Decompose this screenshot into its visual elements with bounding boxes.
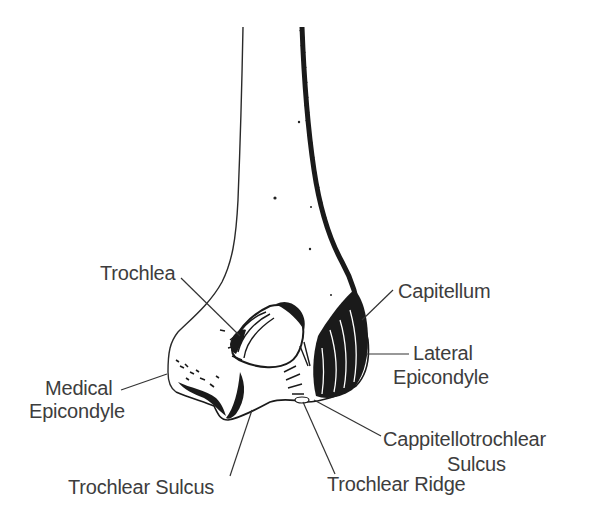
label-capitellotrochlear-sulcus-line1: Cappitellotrochlear	[383, 428, 546, 450]
label-capitellum: Capitellum	[398, 280, 490, 302]
shaft-lateral-outline	[302, 27, 360, 320]
trochlear-sulcus-shading	[226, 372, 244, 419]
label-medial-epicondyle-line2: Epicondyle	[29, 400, 125, 422]
medial-epicondyle-shading	[178, 382, 226, 416]
leader-trochlea	[181, 278, 240, 336]
label-lateral-epicondyle-line2: Epicondyle	[393, 366, 489, 388]
trochlear-ridge-oval	[295, 397, 309, 403]
leader-capitellotrochlear-sulcus	[314, 400, 381, 436]
shaft-medial-outline	[168, 27, 243, 392]
label-capitellotrochlear-sulcus-line2: Sulcus	[447, 453, 506, 475]
surface-dot	[330, 294, 332, 296]
label-lateral-epicondyle-line1: Lateral	[413, 342, 473, 364]
leader-medial-epicondyle	[121, 374, 167, 390]
leader-capitellum	[362, 290, 393, 320]
leader-trochlear-ridge	[303, 402, 335, 474]
label-trochlea: Trochlea	[100, 262, 175, 284]
surface-dot	[309, 248, 311, 250]
leader-trochlear-sulcus	[230, 410, 252, 476]
surface-dot	[310, 206, 312, 208]
label-medial-epicondyle-line1: Medical	[45, 377, 113, 399]
label-trochlear-sulcus: Trochlear Sulcus	[68, 476, 214, 498]
medial-speckles	[176, 330, 225, 387]
label-trochlear-ridge: Trochlear Ridge	[327, 473, 466, 495]
surface-dot	[298, 121, 300, 123]
surface-dot	[273, 196, 276, 199]
